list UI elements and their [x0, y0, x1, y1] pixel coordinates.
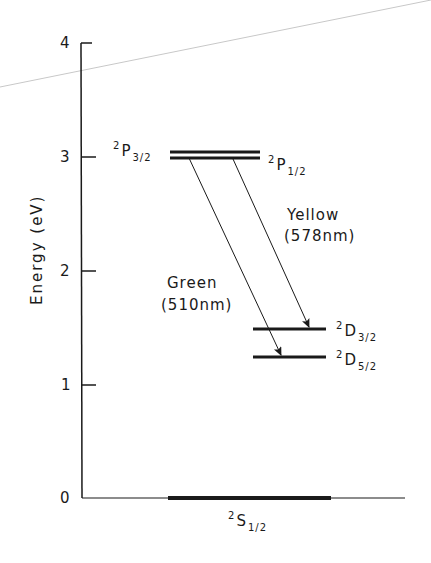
label-2S1-2: 2S1/2	[228, 512, 267, 530]
green-transition-name: Green	[167, 274, 217, 292]
label-2D3-2: 2D3/2	[336, 322, 377, 340]
label-2D5-2: 2D5/2	[336, 351, 377, 369]
y-axis-label: Energy (eV)	[28, 195, 46, 305]
tick-label-4: 4	[60, 34, 70, 52]
tick-label-0: 0	[60, 489, 70, 507]
tick-label-1: 1	[61, 376, 71, 394]
green-transition-wavelength: (510nm)	[161, 296, 232, 314]
yellow-transition-name: Yellow	[287, 206, 339, 224]
label-2P3-2: 2P3/2	[113, 142, 152, 160]
tick-label-2: 2	[60, 262, 70, 280]
tick-label-3: 3	[60, 148, 70, 166]
green-transition-arrow	[189, 158, 281, 355]
label-2P1-2: 2P1/2	[268, 156, 307, 174]
yellow-transition-wavelength: (578nm)	[284, 227, 355, 245]
